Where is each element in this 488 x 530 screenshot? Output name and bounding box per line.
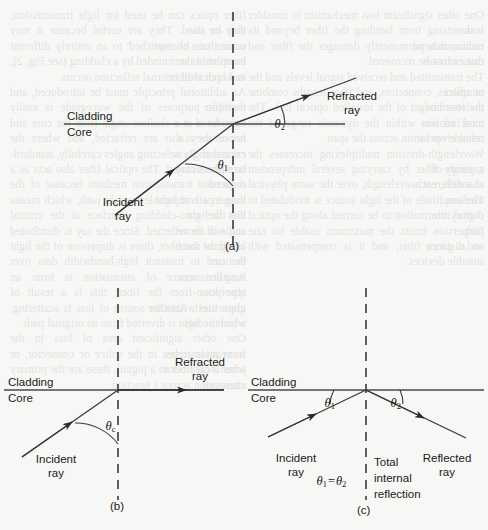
panel-c-incident-ray-arrowhead	[268, 414, 316, 437]
panel-a-cladding-label: Cladding	[67, 110, 112, 123]
panel-a-theta2-label: θ2	[262, 102, 285, 147]
panel-a-refracted-ray-label-line1: Refracted	[311, 90, 393, 103]
panel-a-core-label: Core	[67, 126, 92, 139]
panel-c-cladding-label: Cladding	[251, 376, 296, 389]
panel-c-theta2-label: θ2	[378, 381, 401, 426]
panel-a-id-label: (a)	[225, 240, 239, 252]
panel-a-theta1-label: θ1	[205, 143, 228, 188]
panel-b-refracted-ray-label-line2: ray	[160, 370, 240, 383]
panel-a-refracted-ray-label-line2: ray	[311, 104, 393, 117]
panel-c-reflected-ray-label-line1: Reflected	[408, 452, 486, 465]
panel-b-id-label: (b)	[110, 500, 124, 512]
panel-a-incident-ray-label-line2: ray	[85, 210, 161, 223]
panel-c-core-label: Core	[251, 392, 276, 405]
panel-b-core-label: Core	[8, 392, 33, 405]
panel-c-annotation-line-1: Total	[374, 456, 398, 469]
panel-c-reflected-ray-label-line2: ray	[408, 466, 486, 479]
figure-page: fiber optics can be used for light trans…	[0, 0, 488, 530]
panel-b-refracted-ray-label-line1: Refracted	[160, 356, 240, 369]
panel-c-id-label: (c)	[357, 504, 370, 516]
panel-c-annotation-line-3: reflection	[374, 488, 421, 501]
panel-c-theta1-label: θ1	[312, 381, 335, 426]
optics-diagram-vector-layer	[0, 0, 488, 530]
panel-b-incident-ray-arrowhead	[22, 422, 72, 457]
panel-b-theta-c-label: θc	[93, 404, 115, 449]
panel-c-angle-equality-equation: θ1=θ2	[304, 459, 346, 504]
panel-a-incident-ray-label-line1: Incident	[85, 196, 161, 209]
panel-c-annotation-line-2: internal	[374, 472, 412, 485]
panel-b-cladding-label: Cladding	[8, 376, 53, 389]
panel-b-incident-ray-label-line2: ray	[18, 467, 94, 480]
panel-b-incident-ray-label-line1: Incident	[18, 453, 94, 466]
